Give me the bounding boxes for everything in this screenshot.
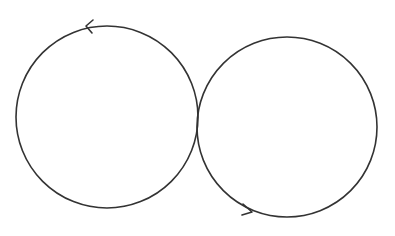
right-circle — [197, 37, 377, 217]
figure-eight-diagram — [0, 0, 395, 236]
left-circle — [16, 26, 198, 208]
